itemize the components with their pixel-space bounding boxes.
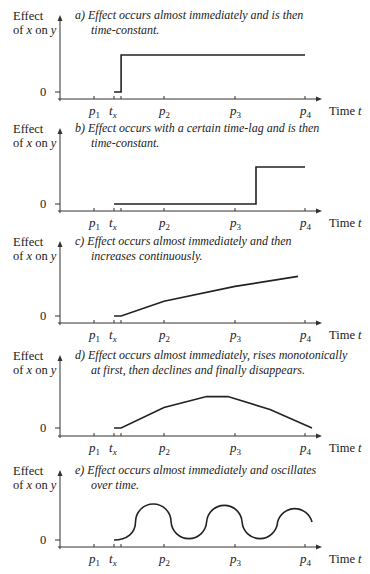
- figure: 0Effectof x on ya) Effect occurs almost …: [0, 0, 370, 574]
- x-tick-label-p1: p1: [88, 440, 100, 457]
- x-tick-label-p4: p4: [299, 440, 312, 457]
- zero-label: 0: [40, 197, 46, 211]
- y-axis-label-line1: Effect: [13, 235, 44, 249]
- y-axis-label-line2: of x on y: [13, 23, 57, 37]
- zero-label: 0: [40, 533, 46, 547]
- zero-label: 0: [40, 421, 46, 435]
- panel-title-line2: time-constant.: [91, 23, 159, 37]
- panel-title-line1: c) Effect occurs almost immediately and …: [75, 234, 292, 248]
- y-axis-label-line1: Effect: [13, 349, 44, 363]
- x-tick-label-p2: p2: [158, 103, 170, 120]
- y-axis-arrow-icon: [58, 355, 63, 361]
- y-axis-label-line2: of x on y: [13, 363, 57, 377]
- panel-title-line1: b) Effect occurs with a certain time-lag…: [75, 121, 319, 135]
- y-axis-arrow-icon: [58, 241, 63, 247]
- x-tick-label-tx: tx: [109, 215, 117, 232]
- effect-curve-b: [114, 167, 305, 204]
- effect-curve-c: [114, 276, 298, 316]
- x-axis-arrow-icon: [316, 434, 322, 439]
- y-axis-label-line2: of x on y: [13, 249, 57, 263]
- x-tick-label-p1: p1: [88, 103, 100, 120]
- panel-a: 0Effectof x on ya) Effect occurs almost …: [13, 8, 362, 120]
- x-tick-label-p3: p3: [229, 440, 242, 457]
- x-tick-label-tx: tx: [109, 327, 117, 344]
- y-axis-label-line1: Effect: [13, 464, 44, 478]
- x-tick-label-p2: p2: [158, 551, 170, 568]
- y-axis-arrow-icon: [58, 15, 63, 21]
- x-axis-label: Time t: [329, 216, 362, 230]
- x-tick-label-p2: p2: [158, 327, 170, 344]
- x-tick-label-p2: p2: [158, 440, 170, 457]
- panel-title-line2: increases continuously.: [91, 249, 203, 263]
- panel-e: 0Effectof x on ye) Effect occurs almost …: [13, 463, 362, 568]
- zero-label: 0: [40, 309, 46, 323]
- x-axis-arrow-icon: [316, 321, 322, 326]
- effect-curve-a: [114, 55, 305, 92]
- panel-b: 0Effectof x on yb) Effect occurs with a …: [13, 121, 362, 232]
- x-axis-arrow-icon: [316, 209, 322, 214]
- panel-title-line2: over time.: [91, 478, 139, 492]
- panel-title-line1: a) Effect occurs almost immediately and …: [75, 8, 303, 22]
- x-axis-label: Time t: [329, 552, 362, 566]
- x-tick-label-p4: p4: [299, 327, 312, 344]
- x-tick-label-p1: p1: [88, 327, 100, 344]
- y-axis-label-line1: Effect: [13, 9, 44, 23]
- x-tick-label-p3: p3: [229, 551, 242, 568]
- zero-label: 0: [40, 85, 46, 99]
- y-axis-label-line2: of x on y: [13, 478, 57, 492]
- y-axis-label-line2: of x on y: [13, 136, 57, 150]
- x-tick-label-p3: p3: [229, 327, 242, 344]
- y-axis-label-line1: Effect: [13, 122, 44, 136]
- x-axis-arrow-icon: [316, 545, 322, 550]
- x-tick-label-p1: p1: [88, 215, 100, 232]
- x-tick-label-p3: p3: [229, 103, 242, 120]
- effect-curve-d: [114, 397, 312, 428]
- panel-d: 0Effectof x on yd) Effect occurs almost …: [13, 348, 362, 457]
- x-axis-label: Time t: [329, 104, 362, 118]
- x-axis-label: Time t: [329, 328, 362, 342]
- x-axis-arrow-icon: [316, 97, 322, 102]
- x-tick-label-tx: tx: [109, 103, 117, 120]
- panel-title-line1: e) Effect occurs almost immediately and …: [75, 463, 317, 477]
- x-tick-label-tx: tx: [109, 551, 117, 568]
- y-axis-arrow-icon: [58, 128, 63, 134]
- x-tick-label-p4: p4: [299, 103, 312, 120]
- panel-title-line1: d) Effect occurs almost immediately, ris…: [75, 348, 348, 362]
- x-axis-label: Time t: [329, 441, 362, 455]
- x-tick-label-p4: p4: [299, 215, 312, 232]
- x-tick-label-p2: p2: [158, 215, 170, 232]
- panel-title-line2: time-constant.: [91, 136, 159, 150]
- panel-c: 0Effectof x on yc) Effect occurs almost …: [13, 234, 362, 344]
- y-axis-arrow-icon: [58, 470, 63, 476]
- x-tick-label-p4: p4: [299, 551, 312, 568]
- x-tick-label-p3: p3: [229, 215, 242, 232]
- panel-title-line2: at first, then declines and finally disa…: [91, 363, 305, 377]
- x-tick-label-tx: tx: [109, 440, 117, 457]
- effect-curve-e: [114, 504, 312, 540]
- x-tick-label-p1: p1: [88, 551, 100, 568]
